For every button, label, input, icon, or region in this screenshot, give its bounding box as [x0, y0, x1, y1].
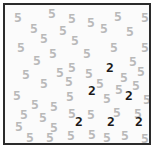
distractor-glyph[interactable]: 5 — [87, 16, 95, 29]
target-glyph[interactable]: 2 — [75, 115, 83, 128]
target-glyph[interactable]: 2 — [135, 115, 143, 128]
distractor-glyph[interactable]: 5 — [49, 47, 57, 60]
distractor-glyph[interactable]: 5 — [137, 65, 145, 78]
distractor-glyph[interactable]: 5 — [26, 131, 34, 144]
distractor-glyph[interactable]: 5 — [68, 61, 76, 74]
distractor-glyph[interactable]: 5 — [141, 41, 149, 54]
distractor-glyph[interactable]: 5 — [100, 22, 108, 35]
distractor-glyph[interactable]: 5 — [56, 66, 64, 79]
distractor-glyph[interactable]: 5 — [115, 83, 123, 96]
visual-search-panel: 5555555555555555555555525555555552525555… — [3, 3, 151, 145]
distractor-glyph[interactable]: 5 — [87, 108, 95, 121]
distractor-glyph[interactable]: 5 — [30, 22, 38, 35]
distractor-glyph[interactable]: 5 — [88, 128, 96, 141]
distractor-glyph[interactable]: 5 — [121, 129, 129, 142]
distractor-glyph[interactable]: 5 — [66, 90, 74, 103]
distractor-glyph[interactable]: 5 — [15, 120, 23, 133]
distractor-glyph[interactable]: 5 — [141, 132, 149, 145]
distractor-glyph[interactable]: 5 — [110, 41, 118, 54]
distractor-glyph[interactable]: 5 — [103, 92, 111, 105]
distractor-glyph[interactable]: 5 — [13, 89, 21, 102]
distractor-glyph[interactable]: 5 — [68, 12, 76, 25]
distractor-glyph[interactable]: 5 — [65, 75, 73, 88]
distractor-glyph[interactable]: 5 — [17, 41, 25, 54]
target-glyph[interactable]: 2 — [106, 61, 114, 74]
target-glyph[interactable]: 2 — [125, 89, 133, 102]
distractor-glyph[interactable]: 5 — [22, 68, 30, 81]
distractor-glyph[interactable]: 5 — [39, 111, 47, 124]
distractor-glyph[interactable]: 5 — [114, 10, 122, 23]
distractor-glyph[interactable]: 5 — [14, 11, 22, 24]
distractor-glyph[interactable]: 5 — [40, 32, 48, 45]
distractor-glyph[interactable]: 5 — [143, 93, 151, 106]
distractor-glyph[interactable]: 5 — [103, 131, 111, 144]
distractor-glyph[interactable]: 5 — [48, 7, 56, 20]
distractor-glyph[interactable]: 5 — [71, 34, 79, 47]
distractor-glyph[interactable]: 5 — [126, 25, 134, 38]
distractor-glyph[interactable]: 5 — [59, 24, 67, 37]
distractor-glyph[interactable]: 5 — [83, 47, 91, 60]
distractor-glyph[interactable]: 5 — [96, 77, 104, 90]
target-glyph[interactable]: 2 — [88, 84, 96, 97]
distractor-glyph[interactable]: 5 — [67, 129, 75, 142]
distractor-glyph[interactable]: 5 — [129, 55, 137, 68]
distractor-glyph[interactable]: 5 — [85, 67, 93, 80]
distractor-glyph[interactable]: 5 — [46, 131, 54, 144]
target-glyph[interactable]: 2 — [107, 115, 115, 128]
distractor-glyph[interactable]: 5 — [31, 98, 39, 111]
distractor-glyph[interactable]: 5 — [50, 100, 58, 113]
distractor-glyph[interactable]: 5 — [33, 54, 41, 67]
distractor-glyph[interactable]: 5 — [141, 11, 149, 24]
distractor-glyph[interactable]: 5 — [40, 77, 48, 90]
distractor-glyph[interactable]: 5 — [132, 79, 140, 92]
